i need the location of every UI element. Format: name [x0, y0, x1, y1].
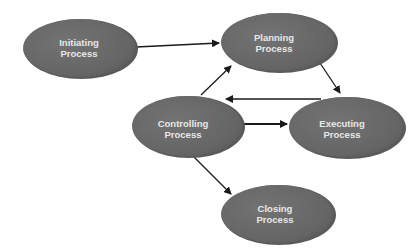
node-controlling: Controlling Process [132, 96, 245, 158]
edge-initiating-to-planning [136, 43, 219, 47]
node-label-controlling-line1: Controlling [158, 118, 209, 129]
node-executing: Executing Process [289, 97, 406, 159]
edge-controlling-to-planning [201, 66, 231, 95]
node-label-planning-line2: Process [256, 43, 293, 54]
edge-controlling-to-closing [193, 156, 231, 194]
node-label-controlling-line2: Process [165, 129, 202, 140]
node-label-initiating-line2: Process [61, 48, 98, 59]
node-label-initiating-line1: Initiating [59, 37, 99, 48]
node-initiating: Initiating Process [23, 19, 138, 79]
node-closing: Closing Process [221, 185, 336, 245]
node-label-closing-line1: Closing [258, 203, 293, 214]
process-diagram: Initiating Process Planning Process Cont… [0, 0, 420, 249]
edge-planning-to-executing [320, 63, 340, 93]
node-label-planning-line1: Planning [254, 32, 294, 43]
node-label-closing-line2: Process [257, 214, 294, 225]
node-label-executing-line1: Executing [319, 118, 365, 129]
node-planning: Planning Process [221, 13, 338, 73]
node-label-executing-line2: Process [324, 129, 361, 140]
